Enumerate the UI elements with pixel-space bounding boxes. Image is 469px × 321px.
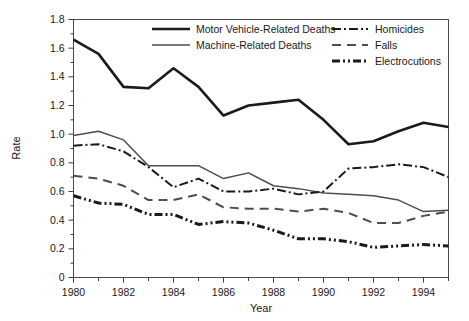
- y-tick-label: 1.0: [50, 128, 65, 140]
- y-tick-label: 0: [59, 271, 65, 283]
- legend-label-machine-related-deaths: Machine-Related Deaths: [196, 39, 312, 51]
- y-axis-title: Rate: [10, 136, 22, 159]
- x-tick-label: 1986: [212, 286, 236, 298]
- legend-label-homicides: Homicides: [375, 23, 424, 35]
- x-tick-label: 1988: [262, 286, 286, 298]
- y-tick-label: 0.8: [50, 156, 65, 168]
- x-tick-label: 1984: [162, 286, 186, 298]
- line-chart: 00.20.40.60.81.01.21.41.61.8 19801982198…: [0, 0, 469, 321]
- y-tick-label: 1.2: [50, 99, 65, 111]
- y-tick-label: 1.8: [50, 13, 65, 25]
- x-tick-label: 1992: [362, 286, 386, 298]
- y-tick-label: 0.2: [50, 242, 65, 254]
- x-tick-label: 1990: [312, 286, 336, 298]
- legend-label-falls: Falls: [375, 39, 397, 51]
- legend-label-motor-vehicle-related-deaths: Motor Vehicle-Related Deaths: [196, 23, 336, 35]
- y-tick-label: 0.4: [50, 214, 65, 226]
- x-tick-label: 1982: [112, 286, 136, 298]
- y-tick-label: 1.4: [50, 70, 65, 82]
- legend-label-electrocutions: Electrocutions: [375, 55, 441, 67]
- x-tick-label: 1994: [412, 286, 436, 298]
- y-tick-label: 0.6: [50, 185, 65, 197]
- x-tick-label: 1980: [62, 286, 86, 298]
- y-tick-label: 1.6: [50, 42, 65, 54]
- x-axis-title: Year: [250, 302, 273, 314]
